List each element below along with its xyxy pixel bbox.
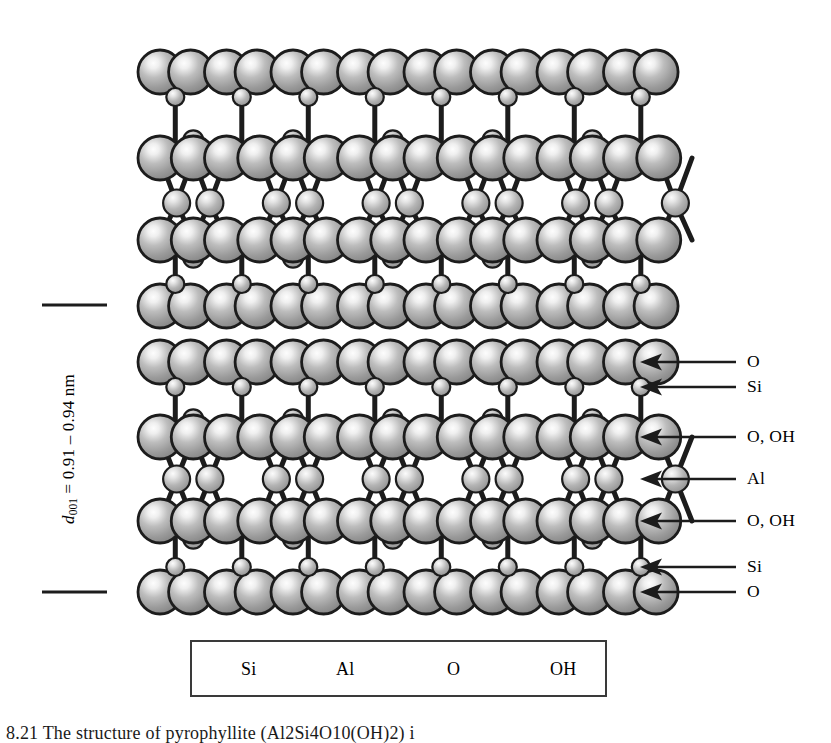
atom-al bbox=[163, 190, 190, 217]
atom-si bbox=[166, 88, 184, 106]
atom-si bbox=[366, 88, 384, 106]
atom-al bbox=[296, 466, 323, 493]
atom-al bbox=[496, 466, 523, 493]
atom-al bbox=[496, 190, 523, 217]
atom-si bbox=[499, 558, 517, 576]
atom-si bbox=[432, 275, 450, 293]
dspacing-unit: nm bbox=[59, 374, 78, 396]
atom-si bbox=[432, 558, 450, 576]
atom-al bbox=[363, 466, 390, 493]
atom-al bbox=[462, 190, 489, 217]
atom-si bbox=[565, 88, 583, 106]
arrow-label-si: Si bbox=[747, 558, 762, 576]
atom-si bbox=[299, 558, 317, 576]
atom-al bbox=[163, 466, 190, 493]
atom-al bbox=[595, 190, 622, 217]
atom-si bbox=[565, 558, 583, 576]
atom-o bbox=[637, 136, 681, 180]
atom-si bbox=[366, 378, 384, 396]
legend-label-oh: OH bbox=[550, 660, 577, 678]
atom-si bbox=[499, 378, 517, 396]
atom-spheres bbox=[138, 50, 689, 614]
arrow-label-o: O bbox=[747, 353, 760, 371]
atom-si bbox=[233, 88, 251, 106]
atom-si bbox=[366, 558, 384, 576]
arrow-label-o-oh: O, OH bbox=[747, 512, 795, 530]
atom-si bbox=[233, 378, 251, 396]
atom-si bbox=[499, 88, 517, 106]
atom-si bbox=[366, 275, 384, 293]
atom-si bbox=[632, 88, 650, 106]
dspacing-subscript: 001 bbox=[67, 498, 79, 515]
atom-si bbox=[166, 378, 184, 396]
dspacing-label: d001 = 0.91 – 0.94 nm bbox=[56, 305, 82, 593]
atom-al bbox=[562, 190, 589, 217]
atom-al bbox=[662, 190, 689, 217]
legend-label-al: Al bbox=[336, 660, 355, 678]
atom-o bbox=[637, 218, 681, 262]
atom-al bbox=[562, 466, 589, 493]
atom-si bbox=[166, 558, 184, 576]
atom-si bbox=[499, 275, 517, 293]
dspacing-value: 0.91 – 0.94 bbox=[59, 401, 78, 480]
atom-al bbox=[263, 190, 290, 217]
atom-al bbox=[462, 466, 489, 493]
atom-al bbox=[363, 190, 390, 217]
atom-al bbox=[595, 466, 622, 493]
figure-root: d001 = 0.91 – 0.94 nm OSiO, OHAlO, OHSiO… bbox=[0, 0, 831, 743]
legend-label-si: Si bbox=[241, 660, 257, 678]
atom-si bbox=[233, 275, 251, 293]
atom-al bbox=[196, 466, 223, 493]
atom-si bbox=[432, 378, 450, 396]
atom-al bbox=[396, 466, 423, 493]
atom-si bbox=[632, 275, 650, 293]
atom-si bbox=[432, 88, 450, 106]
dspacing-symbol: d bbox=[59, 515, 78, 524]
arrow-label-o-oh: O, OH bbox=[747, 428, 795, 446]
atom-si bbox=[299, 88, 317, 106]
atom-si bbox=[565, 275, 583, 293]
crystal-structure-diagram bbox=[0, 0, 831, 743]
atom-al bbox=[296, 190, 323, 217]
atom-si bbox=[299, 378, 317, 396]
arrow-label-si: Si bbox=[747, 378, 762, 396]
legend-label-o: O bbox=[447, 660, 460, 678]
atom-al bbox=[196, 190, 223, 217]
atom-si bbox=[233, 558, 251, 576]
atom-si bbox=[565, 378, 583, 396]
arrow-label-al: Al bbox=[747, 470, 765, 488]
arrow-label-o: O bbox=[747, 583, 760, 601]
dspacing-equals: = bbox=[59, 484, 78, 494]
atom-al bbox=[263, 466, 290, 493]
figure-caption-text: 8.21 The structure of pyrophyllite (Al2S… bbox=[6, 726, 415, 743]
atom-si bbox=[166, 275, 184, 293]
atom-si bbox=[299, 275, 317, 293]
atom-al bbox=[396, 190, 423, 217]
figure-caption: 8.21 The structure of pyrophyllite (Al2S… bbox=[0, 726, 831, 743]
